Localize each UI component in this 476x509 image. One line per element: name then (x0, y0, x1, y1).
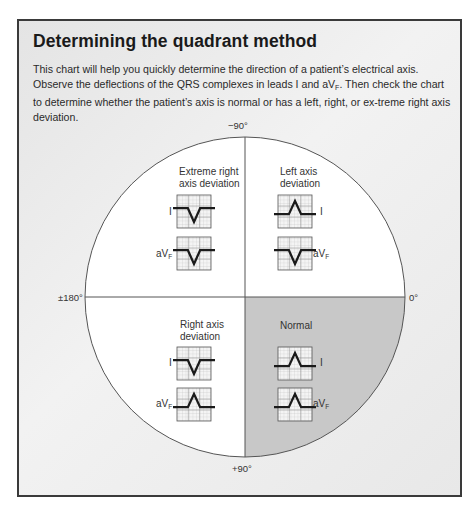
ecg-waveform-aVF-positive (274, 388, 316, 421)
label-line: Right axis (180, 319, 224, 331)
normal-quadrant-shading (245, 297, 410, 462)
axis-label-top: −90° (228, 120, 248, 131)
lead-label-I: I (169, 206, 172, 217)
lead-label-aVF: aVF (313, 248, 329, 260)
lead-name: I (320, 357, 323, 368)
ecg-waveform-I-positive (274, 347, 316, 380)
quadrant-label-extreme-right: Extreme right axis deviation (179, 166, 240, 190)
lead-name: aV (313, 248, 325, 259)
ecg-waveform-I-negative (173, 347, 215, 380)
ecg-waveform-I-positive (274, 195, 316, 228)
lead-label-aVF: aVF (156, 248, 172, 260)
ecg-waveform-aVF-negative (173, 237, 215, 270)
lead-label-aVF: aVF (313, 398, 329, 410)
axis-label-right: 0° (409, 292, 418, 303)
quadrant-label-normal: Normal (280, 320, 312, 332)
lead-subscript: F (325, 253, 329, 260)
lead-name: aV (156, 248, 168, 259)
lead-subscript: F (168, 253, 172, 260)
quadrant-label-right-axis: Right axis deviation (180, 319, 224, 343)
ecg-waveform-aVF-positive (173, 388, 215, 421)
lead-name: I (320, 206, 323, 217)
label-line: Extreme right (179, 166, 240, 178)
lead-subscript: F (325, 403, 329, 410)
label-line: Left axis (280, 166, 320, 178)
label-line: deviation (180, 331, 224, 343)
label-line: Normal (280, 320, 312, 332)
ecg-waveform-aVF-negative (274, 237, 316, 270)
lead-label-I: I (320, 206, 323, 217)
label-line: axis deviation (179, 178, 240, 190)
quadrant-circle-diagram (0, 0, 476, 509)
lead-subscript: F (168, 403, 172, 410)
lead-name: I (169, 206, 172, 217)
label-line: deviation (280, 178, 320, 190)
axis-label-bottom: +90° (232, 463, 252, 474)
lead-label-aVF: aVF (156, 398, 172, 410)
axis-label-left: ±180° (58, 292, 83, 303)
lead-name: I (169, 357, 172, 368)
lead-name: aV (156, 398, 168, 409)
lead-name: aV (313, 398, 325, 409)
ecg-waveform-I-negative (173, 195, 215, 228)
quadrant-label-left-axis: Left axis deviation (280, 166, 320, 190)
lead-label-I: I (320, 357, 323, 368)
lead-label-I: I (169, 357, 172, 368)
